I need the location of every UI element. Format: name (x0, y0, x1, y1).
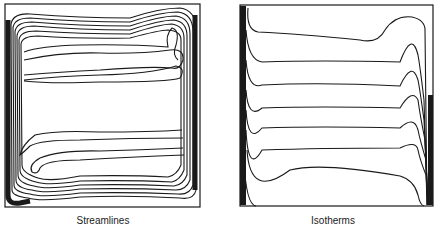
streamlines-caption: Streamlines (77, 215, 130, 226)
isotherms-plot (240, 5, 433, 206)
isotherms-caption: Isotherms (311, 215, 355, 226)
figure-canvas: Streamlines Isotherms (0, 0, 441, 231)
streamlines-plot (5, 4, 200, 207)
